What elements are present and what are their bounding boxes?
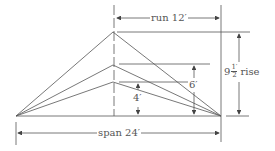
span-label: span 24′: [98, 128, 140, 138]
rise-label: 9 1′ 2 rise: [224, 63, 259, 80]
run-label: run 12′: [151, 13, 187, 23]
rise-fraction: 1′ 2: [231, 64, 237, 79]
roof-high: [16, 32, 221, 116]
low-rise-label: 4′: [133, 93, 142, 103]
rise-whole: 9: [224, 67, 230, 77]
mid-rise-label: 6′: [189, 80, 198, 90]
rise-word: rise: [240, 67, 259, 77]
roof-mid: [16, 65, 221, 116]
